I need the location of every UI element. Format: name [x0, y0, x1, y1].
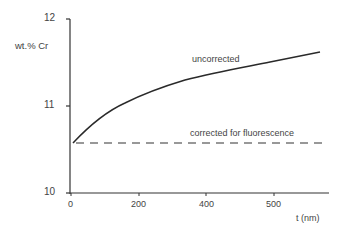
- chart-plot-area: [0, 0, 348, 235]
- y-axis-label: wt.% Cr: [15, 40, 48, 51]
- y-tick-label-12: 12: [44, 12, 55, 23]
- annotation-uncorrected: uncorrected: [192, 54, 240, 64]
- x-tick-label-0: 0: [68, 199, 73, 209]
- y-tick-label-10: 10: [44, 186, 55, 197]
- x-tick-label-500: 500: [266, 199, 281, 209]
- x-axis-label: t (nm): [296, 213, 320, 223]
- x-tick-label-400: 400: [199, 199, 214, 209]
- y-tick-label-11: 11: [44, 99, 54, 110]
- x-tick-label-200: 200: [131, 199, 146, 209]
- annotation-corrected: corrected for fluorescence: [190, 128, 294, 138]
